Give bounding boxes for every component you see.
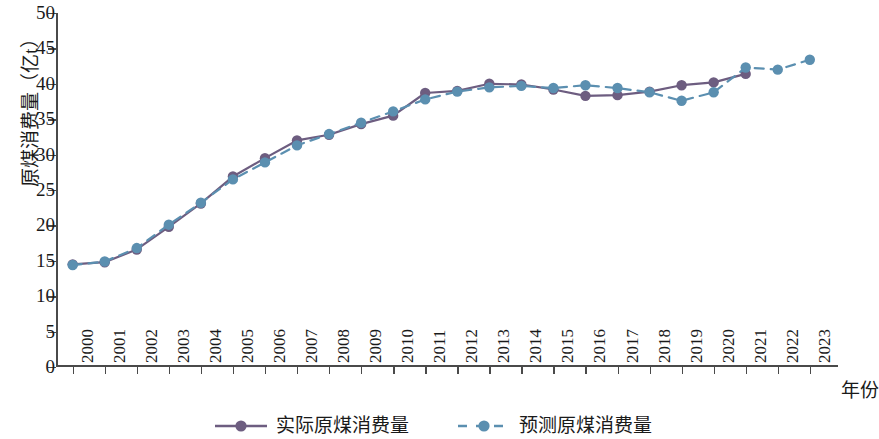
x-axis-tick xyxy=(137,367,138,374)
plot-area: 05101520253035404550 2000200120022003200… xyxy=(56,13,838,367)
x-axis-tick xyxy=(361,367,362,374)
predicted-data-point xyxy=(388,106,398,116)
legend-swatch-actual xyxy=(214,418,268,434)
predicted-data-point xyxy=(196,198,206,208)
legend-label-predicted: 预测原煤消费量 xyxy=(519,416,652,435)
y-axis-tick-label: 30 xyxy=(13,145,55,164)
x-axis-tick xyxy=(810,367,811,374)
x-axis-tick xyxy=(457,367,458,374)
x-axis-tick xyxy=(233,367,234,374)
predicted-data-point xyxy=(644,87,654,97)
y-axis-tick-label: 20 xyxy=(13,215,55,234)
predicted-series-line xyxy=(73,60,810,265)
x-axis-tick xyxy=(393,367,394,374)
actual-series-line xyxy=(73,74,746,264)
predicted-data-point xyxy=(100,256,110,266)
legend-label-actual: 实际原煤消费量 xyxy=(276,416,409,435)
x-axis-tick xyxy=(553,367,554,374)
x-axis-tick xyxy=(650,367,651,374)
predicted-data-point xyxy=(805,55,815,65)
predicted-data-point xyxy=(516,81,526,91)
legend-swatch-predicted xyxy=(457,418,511,434)
series-layer xyxy=(56,13,838,367)
x-axis-tick xyxy=(329,367,330,374)
x-axis-tick xyxy=(297,367,298,374)
y-axis-tick-label: 0 xyxy=(13,357,55,376)
x-axis-tick xyxy=(105,367,106,374)
predicted-data-point xyxy=(292,140,302,150)
x-axis-tick xyxy=(714,367,715,374)
predicted-data-point xyxy=(676,96,686,106)
x-axis-tick xyxy=(746,367,747,374)
chart-legend: 实际原煤消费量 预测原煤消费量 xyxy=(0,416,865,435)
y-axis-tick-label: 25 xyxy=(13,180,55,199)
predicted-data-point xyxy=(773,64,783,74)
x-axis-tick xyxy=(201,367,202,374)
x-axis-title: 年份 xyxy=(841,375,879,402)
x-axis-tick xyxy=(489,367,490,374)
x-axis-tick xyxy=(778,367,779,374)
predicted-data-point xyxy=(228,174,238,184)
x-axis-tick xyxy=(265,367,266,374)
predicted-data-point xyxy=(612,83,622,93)
predicted-data-point xyxy=(548,83,558,93)
predicted-data-point xyxy=(484,82,494,92)
y-axis-tick-label: 10 xyxy=(13,286,55,305)
x-axis-tick xyxy=(521,367,522,374)
predicted-data-point xyxy=(132,243,142,253)
predicted-data-point xyxy=(324,129,334,139)
predicted-data-point xyxy=(741,62,751,72)
predicted-data-point xyxy=(580,80,590,90)
y-axis-tick-label: 45 xyxy=(13,38,55,57)
predicted-data-point xyxy=(67,260,77,270)
legend-item-actual[interactable]: 实际原煤消费量 xyxy=(214,416,409,435)
y-axis-tick-label: 40 xyxy=(13,74,55,93)
x-axis-tick xyxy=(73,367,74,374)
predicted-data-point xyxy=(260,157,270,167)
predicted-data-point xyxy=(356,118,366,128)
x-axis-tick xyxy=(425,367,426,374)
predicted-data-point xyxy=(708,87,718,97)
x-axis-tick xyxy=(585,367,586,374)
x-axis-tick xyxy=(618,367,619,374)
predicted-data-point xyxy=(420,94,430,104)
x-axis-tick xyxy=(169,367,170,374)
y-axis-tick-label: 15 xyxy=(13,251,55,270)
predicted-data-point xyxy=(452,86,462,96)
actual-data-point xyxy=(708,77,718,87)
actual-data-point xyxy=(676,80,686,90)
legend-item-predicted[interactable]: 预测原煤消费量 xyxy=(457,416,652,435)
y-axis-tick-label: 50 xyxy=(13,3,55,22)
y-axis-tick-label: 35 xyxy=(13,109,55,128)
y-axis-tick-label: 5 xyxy=(13,322,55,341)
predicted-data-point xyxy=(164,219,174,229)
x-axis-tick xyxy=(682,367,683,374)
actual-data-point xyxy=(580,91,590,101)
